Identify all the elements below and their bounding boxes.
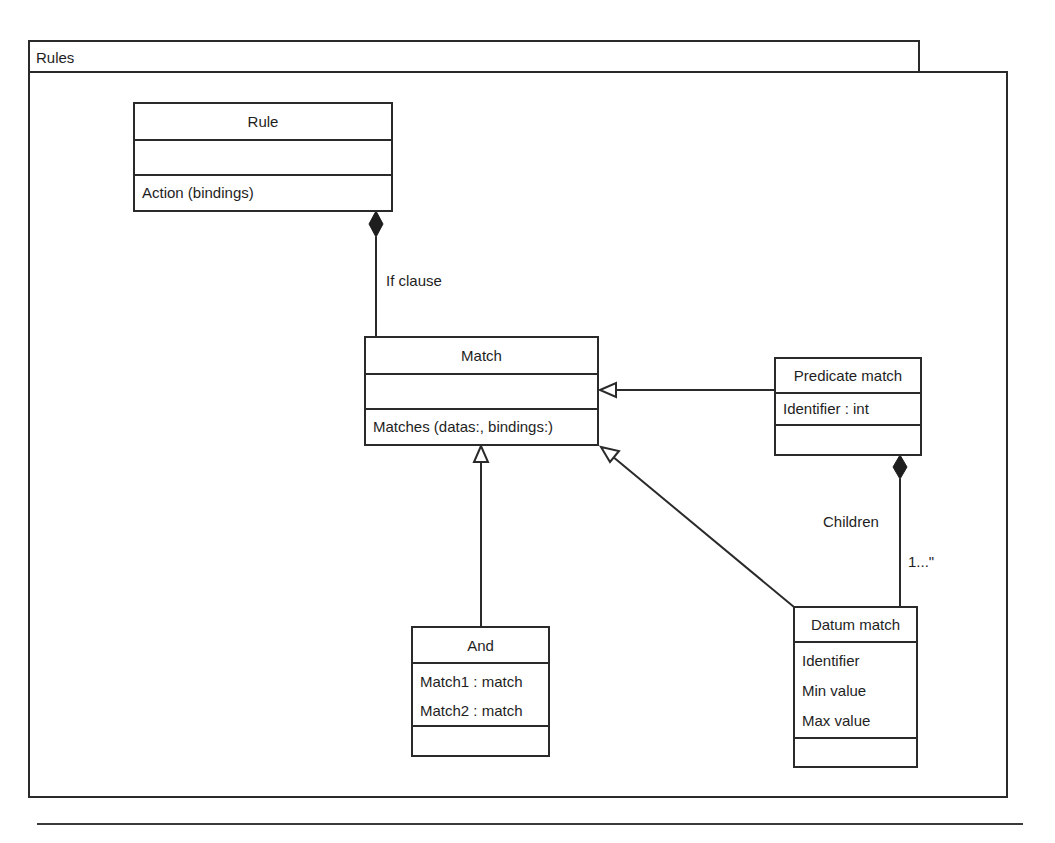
generalization-predicate-match [600, 383, 775, 397]
attribute: Min value [795, 676, 916, 706]
attributes-compartment [366, 373, 597, 408]
label-if-clause: If clause [386, 272, 442, 289]
attribute: Match1 : match [413, 667, 548, 696]
class-name: Predicate match [776, 359, 920, 392]
filled-diamond-icon [893, 455, 907, 479]
operations-compartment [795, 737, 916, 766]
attribute: Max value [795, 706, 916, 736]
attributes-compartment: Identifier Min value Max value [795, 641, 916, 737]
class-datum-match[interactable]: Datum match Identifier Min value Max val… [793, 606, 918, 768]
attribute: Match2 : match [413, 696, 548, 725]
class-match[interactable]: Match Matches (datas:, bindings:) [364, 336, 599, 446]
filled-diamond-icon [369, 211, 383, 237]
composition-rule-match [369, 211, 383, 337]
class-predicate-match[interactable]: Predicate match Identifier : int [774, 357, 922, 456]
generalization-and [474, 446, 488, 627]
operation: Action (bindings) [135, 174, 391, 210]
hollow-triangle-icon [474, 446, 488, 462]
class-and[interactable]: And Match1 : match Match2 : match [411, 626, 550, 757]
operations-compartment [413, 725, 548, 755]
label-children: Children [823, 513, 879, 530]
hollow-triangle-icon [600, 383, 616, 397]
attributes-compartment: Match1 : match Match2 : match [413, 662, 548, 725]
attributes-compartment [135, 139, 391, 174]
composition-predicate-datum [893, 455, 907, 607]
attribute: Identifier : int [776, 392, 920, 424]
class-name: Datum match [795, 608, 916, 641]
class-name: Match [366, 338, 597, 373]
class-rule[interactable]: Rule Action (bindings) [133, 102, 393, 212]
generalization-datum-match [601, 447, 794, 607]
attribute: Identifier [795, 646, 916, 676]
operations-compartment [776, 424, 920, 454]
class-name: And [413, 628, 548, 662]
label-multiplicity: 1..." [908, 553, 934, 570]
operation: Matches (datas:, bindings:) [366, 408, 597, 444]
class-name: Rule [135, 104, 391, 139]
